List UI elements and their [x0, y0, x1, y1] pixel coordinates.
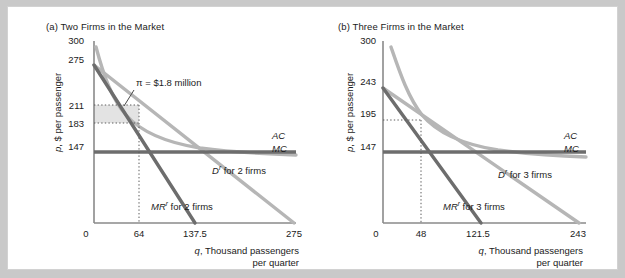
- label-demand-2firms-text: for 2 firms: [221, 165, 266, 176]
- panel-two-firms: (a) Two Firms in the Market p, $ per pas…: [8, 7, 313, 271]
- label-mr-3firms-symbol: MR: [443, 201, 458, 212]
- label-demand-3firms: Dr for 3 firms: [498, 168, 552, 180]
- label-mr-3firms: MRr for 3 firms: [443, 200, 505, 212]
- panel-three-firms: (b) Three Firms in the Market p, $ per p…: [308, 7, 613, 271]
- label-demand-2firms: Dr for 2 firms: [212, 164, 266, 176]
- label-mr-2firms-symbol: MR: [151, 201, 166, 212]
- figure-card: (a) Two Firms in the Market p, $ per pas…: [7, 6, 618, 270]
- label-demand-2firms-symbol: D: [212, 165, 219, 176]
- label-mc-3firms: MC: [564, 143, 579, 154]
- curve-ac-2firms: [96, 47, 296, 155]
- label-ac-2firms: AC: [272, 130, 285, 141]
- profit-annotation: π = $1.8 million: [136, 77, 201, 88]
- panel-a-plot: [8, 7, 313, 271]
- figure-page: (a) Two Firms in the Market p, $ per pas…: [0, 0, 625, 278]
- label-mc-2firms: MC: [272, 143, 287, 154]
- label-demand-3firms-text: for 3 firms: [507, 169, 552, 180]
- label-mr-3firms-text: for 3 firms: [460, 201, 505, 212]
- label-demand-3firms-symbol: D: [498, 169, 505, 180]
- label-ac-3firms: AC: [564, 130, 577, 141]
- label-mr-2firms-text: for 2 firms: [168, 201, 213, 212]
- label-mr-2firms: MRr for 2 firms: [151, 200, 213, 212]
